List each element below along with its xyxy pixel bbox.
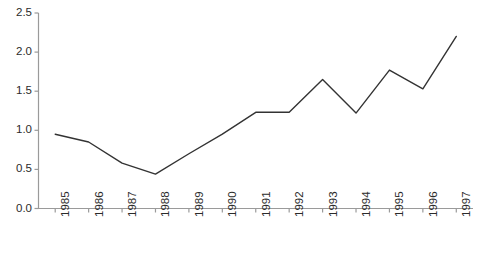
y-tick-label: 2.0 [4, 46, 32, 58]
line-chart: 0.00.51.01.52.02.5 198519861987198819891… [0, 0, 481, 255]
x-tick-label: 1990 [227, 191, 239, 217]
x-tick-label: 1993 [328, 191, 340, 217]
x-tick-label: 1992 [294, 191, 306, 217]
x-tick-label: 1986 [94, 191, 106, 217]
x-tick-label: 1994 [361, 191, 373, 217]
x-tick-label: 1997 [461, 191, 473, 217]
x-tick-label: 1996 [428, 191, 440, 217]
x-tick-label: 1987 [127, 191, 139, 217]
y-tick-label: 2.5 [4, 7, 32, 19]
x-tick-label: 1989 [194, 191, 206, 217]
y-tick-label: 0.0 [4, 203, 32, 215]
x-tick-label: 1985 [60, 191, 72, 217]
y-tick-label: 1.5 [4, 85, 32, 97]
x-tick-label: 1991 [261, 191, 273, 217]
chart-plot-area [0, 0, 481, 255]
y-tick-label: 1.0 [4, 124, 32, 136]
x-tick-label: 1988 [160, 191, 172, 217]
x-tick-label: 1995 [394, 191, 406, 217]
y-tick-label: 0.5 [4, 163, 32, 175]
data-series-line [55, 36, 456, 174]
